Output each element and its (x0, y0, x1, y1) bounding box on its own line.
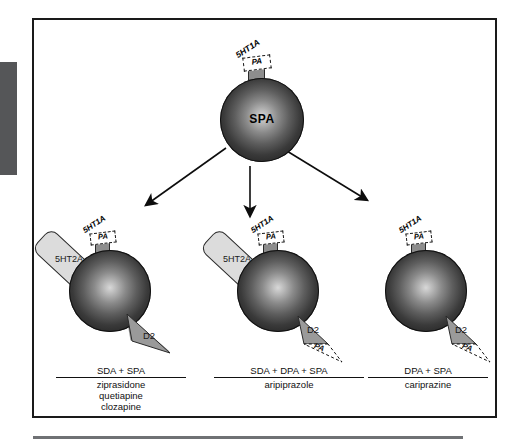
left-drug-2: quetiapine (56, 390, 186, 401)
right-pa-box: PA (405, 230, 432, 245)
right-d2-label: D2 (455, 324, 467, 335)
left-d2-label: D2 (143, 330, 155, 341)
left-drug-1: ziprasidone (56, 379, 186, 390)
footer-rule (33, 436, 463, 439)
page-edge-tab (0, 62, 17, 175)
central-sphere: SPA (220, 78, 304, 162)
middle-5ht2a-label: 5HT2A (223, 254, 251, 264)
central-receptor-unit: 5HT1A PA SPA (210, 36, 330, 166)
left-pa-box: PA (89, 230, 116, 245)
left-caption: SDA + SPA ziprasidone quetiapine clozapi… (56, 365, 186, 413)
middle-drug-1: aripiprazole (214, 379, 364, 390)
right-receptor-unit: 5HT1A PA D2 PA DPA + SPA cariprazine (354, 210, 504, 415)
middle-caption: SDA + DPA + SPA aripiprazole (214, 365, 364, 390)
figure-frame: 5HT1A PA SPA 5HT2A 5HT1A PA D2 SDA (32, 18, 497, 418)
left-receptor-unit: 5HT2A 5HT1A PA D2 SDA + SPA ziprasidone … (38, 210, 208, 415)
right-caption-title: DPA + SPA (368, 365, 488, 378)
right-drug-1: cariprazine (368, 379, 488, 390)
right-caption: DPA + SPA cariprazine (368, 365, 488, 390)
central-pa-box: PA (242, 54, 271, 71)
middle-d2-outline (296, 314, 356, 372)
middle-d2-label: D2 (307, 324, 319, 335)
left-drug-3: clozapine (56, 401, 186, 412)
left-caption-title: SDA + SPA (56, 365, 186, 378)
central-sphere-label: SPA (220, 112, 304, 126)
left-5ht2a-label: 5HT2A (55, 254, 83, 264)
middle-caption-title: SDA + DPA + SPA (214, 365, 364, 378)
figure-page: 5HT1A PA SPA 5HT2A 5HT1A PA D2 SDA (0, 0, 520, 445)
middle-pa-box: PA (257, 230, 284, 245)
right-d2-outline (444, 314, 504, 372)
